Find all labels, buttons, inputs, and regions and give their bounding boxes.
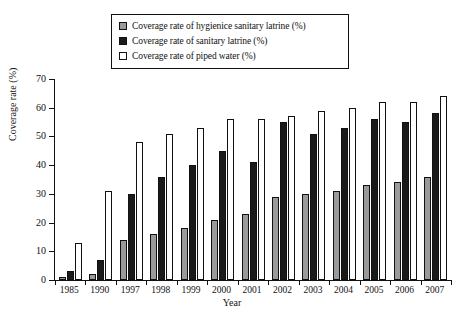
bar-group-1985	[55, 79, 85, 280]
bar-pip-2007	[440, 96, 447, 280]
y-axis-tick-label: 50	[36, 130, 46, 142]
bar-pip-2002	[288, 116, 295, 280]
x-axis-tick-label: 1997	[115, 284, 145, 296]
bar-group-2003	[299, 79, 329, 280]
y-axis-tick-label: 40	[36, 159, 46, 171]
bar-san-1997	[128, 194, 135, 280]
x-axis-tick-label: 2001	[237, 284, 267, 296]
x-axis-tick-label: 2007	[420, 284, 450, 296]
legend-item-hygienic-sanitary-latrine: Coverage rate of hygienice sanitary latr…	[119, 19, 342, 33]
plot-area: 010203040506070	[54, 79, 451, 281]
bar-san-1998	[158, 177, 165, 280]
bar-pip-1998	[166, 134, 173, 280]
x-axis-tick-label: 2003	[298, 284, 328, 296]
bar-chart: Coverage rate of hygienice sanitary latr…	[0, 0, 464, 314]
bar-san-2002	[280, 122, 287, 280]
legend-label-hygienic: Coverage rate of hygienice sanitary latr…	[132, 21, 306, 32]
legend-swatch-icon-piped-water	[119, 52, 127, 60]
y-axis-title: Coverage rate (%)	[7, 127, 19, 141]
bar-group-2006	[390, 79, 420, 280]
x-axis-tick-label: 1985	[54, 284, 84, 296]
bar-san-2001	[250, 162, 257, 280]
bar-group-2001	[238, 79, 268, 280]
x-axis-tick-label: 2004	[328, 284, 358, 296]
bar-hyg-2001	[242, 214, 249, 280]
bar-hyg-1998	[150, 234, 157, 280]
bar-pip-1990	[105, 191, 112, 280]
bar-pip-2004	[349, 108, 356, 280]
bar-group-2007	[421, 79, 451, 280]
bar-san-2005	[371, 119, 378, 280]
legend-swatch-icon-hygienic	[119, 22, 127, 30]
bar-pip-2006	[410, 102, 417, 280]
bar-hyg-2000	[211, 220, 218, 280]
bar-pip-2003	[318, 111, 325, 280]
bar-san-2000	[219, 151, 226, 280]
x-axis-tick-label: 2000	[206, 284, 236, 296]
x-axis-title: Year	[0, 297, 464, 309]
legend-item-piped-water: Coverage rate of piped water (%)	[119, 49, 342, 63]
bar-group-1999	[177, 79, 207, 280]
bar-hyg-1985	[59, 277, 66, 280]
bar-group-1990	[85, 79, 115, 280]
bar-hyg-2004	[333, 191, 340, 280]
bar-pip-2000	[227, 119, 234, 280]
bar-pip-1997	[136, 142, 143, 280]
bar-group-1997	[116, 79, 146, 280]
bar-pip-1985	[75, 243, 82, 280]
x-axis-tick-label: 2006	[389, 284, 419, 296]
bar-san-1985	[67, 271, 74, 280]
bar-hyg-2003	[302, 194, 309, 280]
x-axis-tick-label: 1998	[145, 284, 175, 296]
bar-san-1999	[189, 165, 196, 280]
x-axis-tick-label: 2002	[267, 284, 297, 296]
x-axis-tick-label: 2005	[359, 284, 389, 296]
y-axis-tick-label: 10	[36, 245, 46, 257]
bar-hyg-2006	[394, 182, 401, 280]
bar-group-2002	[268, 79, 298, 280]
bar-group-2005	[360, 79, 390, 280]
x-axis-tick	[451, 280, 452, 285]
bar-hyg-2007	[424, 177, 431, 280]
bar-san-2007	[432, 113, 439, 280]
bar-group-2004	[329, 79, 359, 280]
y-axis-tick-label: 20	[36, 217, 46, 229]
legend-label-sanitary: Coverage rate of sanitary latrine (%)	[132, 36, 267, 47]
bar-hyg-2002	[272, 197, 279, 280]
bar-hyg-2005	[363, 185, 370, 280]
y-axis-tick-label: 70	[36, 73, 46, 85]
bar-hyg-1990	[89, 274, 96, 280]
y-axis-tick-label: 30	[36, 188, 46, 200]
bar-san-2004	[341, 128, 348, 280]
bar-pip-2005	[379, 102, 386, 280]
legend-label-piped-water: Coverage rate of piped water (%)	[132, 51, 256, 62]
y-axis-tick-label: 0	[41, 274, 46, 286]
y-axis-tick-label: 60	[36, 102, 46, 114]
bar-group-2000	[207, 79, 237, 280]
legend-swatch-icon-sanitary	[119, 37, 127, 45]
bar-san-2003	[310, 134, 317, 280]
bar-san-1990	[97, 260, 104, 280]
bar-group-1998	[146, 79, 176, 280]
bars-layer	[55, 79, 451, 280]
bar-pip-2001	[258, 119, 265, 280]
bar-hyg-1997	[120, 240, 127, 280]
bar-hyg-1999	[181, 228, 188, 280]
bar-san-2006	[402, 122, 409, 280]
legend-item-sanitary-latrine: Coverage rate of sanitary latrine (%)	[119, 34, 342, 48]
x-axis-tick-label: 1999	[176, 284, 206, 296]
bar-pip-1999	[197, 128, 204, 280]
chart-legend: Coverage rate of hygienice sanitary latr…	[111, 14, 349, 69]
x-axis-tick-labels: 1985199019971998199920002001200220032004…	[54, 284, 450, 296]
x-axis-tick-label: 1990	[84, 284, 114, 296]
